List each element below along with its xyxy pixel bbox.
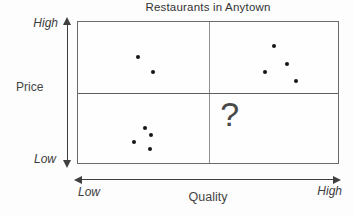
x-axis-high-label: High: [312, 184, 342, 198]
horizontal-divider: [78, 93, 338, 94]
arrow-left-icon: [74, 176, 82, 184]
arrow-up-icon: [63, 17, 71, 25]
data-point: [285, 62, 289, 66]
data-point: [294, 79, 298, 83]
y-axis-label: Price: [16, 80, 43, 94]
data-point: [148, 147, 152, 151]
data-point: [149, 133, 153, 137]
y-axis-high-label: High: [24, 16, 58, 30]
data-point: [151, 70, 155, 74]
y-axis-arrow: [67, 24, 68, 162]
y-axis-low-label: Low: [22, 152, 56, 166]
plot-area: ?: [77, 21, 339, 164]
data-point: [143, 126, 147, 130]
x-axis-label: Quality: [77, 190, 339, 204]
chart-title: Restaurants in Anytown: [77, 1, 339, 13]
question-mark-annotation: ?: [220, 97, 239, 131]
arrow-down-icon: [63, 160, 71, 168]
data-point: [272, 44, 276, 48]
arrow-right-icon: [333, 176, 341, 184]
data-point: [263, 70, 267, 74]
x-axis-arrow: [81, 179, 335, 180]
quadrant-chart: Restaurants in Anytown High Price Low ? …: [0, 0, 353, 216]
data-point: [132, 140, 136, 144]
data-point: [136, 55, 140, 59]
